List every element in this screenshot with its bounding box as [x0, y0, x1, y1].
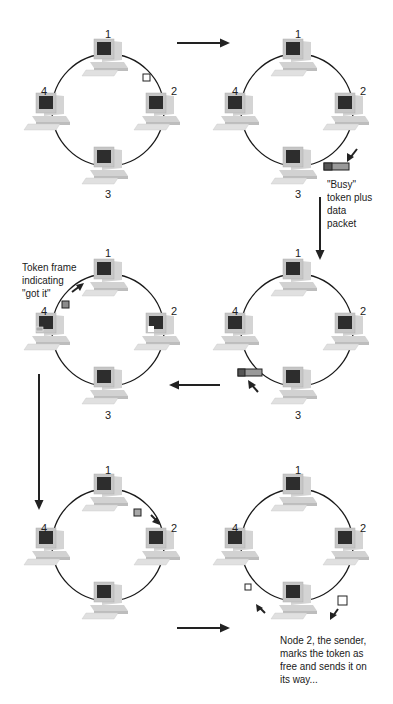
computer-icon — [213, 93, 259, 130]
free-token-icon — [143, 74, 150, 81]
node-label-4: 4 — [232, 305, 238, 317]
busy-data-packet-icon — [324, 163, 349, 170]
node-label-4: 4 — [232, 85, 238, 97]
node-label-2: 2 — [360, 85, 366, 97]
received-data-icon — [36, 327, 43, 331]
node-label-2: 2 — [360, 305, 366, 317]
node-label-3: 3 — [105, 188, 111, 200]
computer-icon — [323, 93, 369, 130]
computer-icon — [134, 93, 180, 130]
computer-icon — [271, 367, 317, 404]
node-label-2: 2 — [360, 522, 366, 534]
node-label-1: 1 — [295, 247, 301, 259]
busy-data-packet-icon — [238, 369, 262, 376]
node-label-4: 4 — [41, 522, 47, 534]
busy-token-caption: "Busy" token plus data packet — [327, 178, 372, 230]
direction-arrow-icon — [248, 380, 258, 392]
free-token-icon — [245, 584, 251, 590]
direction-arrow-icon — [330, 609, 338, 620]
node-label-2: 2 — [171, 85, 177, 97]
node-label-1: 1 — [295, 464, 301, 476]
computer-icon — [213, 313, 259, 350]
node-label-2: 2 — [171, 522, 177, 534]
sender-frees-token-caption: Node 2, the sender, marks the token as f… — [280, 634, 367, 686]
node-label-1: 1 — [105, 247, 111, 259]
direction-arrow-icon — [256, 604, 265, 613]
token-ring-diagram: 1 2 3 4 1 2 3 4 "Busy" token plus data p… — [0, 0, 393, 704]
node-label-1: 1 — [295, 28, 301, 40]
computer-icon — [271, 147, 317, 184]
computer-icon — [323, 313, 369, 350]
flow-arrow-p3-to-p5 — [35, 374, 44, 510]
flow-arrow-p2-to-p4 — [316, 197, 325, 260]
node-label-2: 2 — [171, 305, 177, 317]
got-it-token-icon — [134, 509, 141, 516]
panel-4 — [213, 259, 369, 404]
computer-icon — [82, 147, 128, 184]
computer-icon — [24, 313, 70, 350]
computer-icon — [82, 367, 128, 404]
node-label-1: 1 — [105, 28, 111, 40]
flow-arrow-p5-to-p6 — [177, 624, 230, 633]
panel-2 — [213, 39, 369, 184]
flow-arrow-p4-to-p3 — [169, 381, 220, 390]
panel-5 — [24, 474, 180, 619]
node-label-3: 3 — [295, 188, 301, 200]
node-label-4: 4 — [232, 522, 238, 534]
computer-icon — [134, 313, 180, 350]
node-label-3: 3 — [295, 409, 301, 421]
panel-1 — [24, 39, 180, 184]
node-label-3: 3 — [105, 409, 111, 421]
computer-icon — [82, 582, 128, 619]
node-label-4: 4 — [41, 85, 47, 97]
token-on-screen-icon — [148, 326, 154, 332]
node-label-1: 1 — [105, 464, 111, 476]
direction-arrow-icon — [347, 149, 357, 162]
got-it-token-icon — [62, 301, 69, 308]
computer-icon — [24, 93, 70, 130]
panel-6 — [213, 474, 369, 620]
free-token-icon — [338, 596, 347, 605]
flow-arrow-p1-to-p2 — [177, 39, 230, 48]
computer-icon — [271, 582, 317, 619]
got-it-caption: Token frame indicating "got it" — [22, 261, 76, 300]
node-label-4: 4 — [41, 305, 47, 317]
